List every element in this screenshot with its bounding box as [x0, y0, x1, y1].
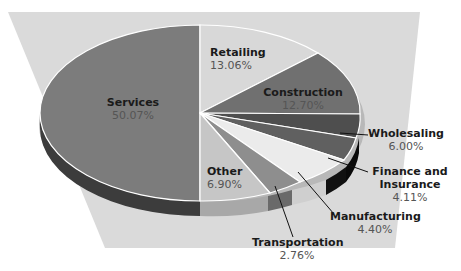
label-manufacturing-pct: 4.40% — [330, 223, 420, 236]
label-other: Other 6.90% — [207, 165, 242, 191]
label-finance-name2: Insurance — [366, 178, 454, 191]
label-wholesaling: Wholesaling 6.00% — [366, 127, 446, 153]
label-services: Services 50.07% — [78, 96, 188, 122]
label-wholesaling-name: Wholesaling — [366, 127, 446, 140]
label-services-name: Services — [78, 96, 188, 109]
label-services-pct: 50.07% — [78, 109, 188, 122]
label-retailing-pct: 13.06% — [210, 59, 266, 72]
label-transportation-pct: 2.76% — [252, 249, 342, 262]
label-retailing: Retailing 13.06% — [210, 46, 266, 72]
label-construction: Construction 12.70% — [258, 86, 348, 112]
label-finance: Finance and Insurance 4.11% — [366, 165, 454, 204]
label-transportation: Transportation 2.76% — [252, 236, 342, 262]
label-finance-pct: 4.11% — [366, 191, 454, 204]
label-construction-name: Construction — [258, 86, 348, 99]
label-wholesaling-pct: 6.00% — [366, 140, 446, 153]
label-transportation-name: Transportation — [252, 236, 342, 249]
label-retailing-name: Retailing — [210, 46, 266, 59]
label-construction-pct: 12.70% — [258, 99, 348, 112]
label-other-pct: 6.90% — [207, 178, 242, 191]
label-manufacturing: Manufacturing 4.40% — [330, 210, 420, 236]
label-finance-name1: Finance and — [366, 165, 454, 178]
label-manufacturing-name: Manufacturing — [330, 210, 420, 223]
label-other-name: Other — [207, 165, 242, 178]
